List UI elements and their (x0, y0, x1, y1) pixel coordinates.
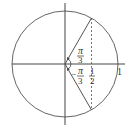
half-numerator: 1 (90, 66, 95, 76)
lower-angle-sign: − (71, 69, 76, 79)
unit-circle-diagram: π 3 − π 3 1 2 1 (0, 0, 131, 129)
half-denominator: 2 (90, 76, 95, 86)
angle-arc-upper (68, 59, 71, 64)
one-label: 1 (117, 66, 122, 77)
upper-angle-denominator: 3 (78, 55, 83, 65)
lower-angle-denominator: 3 (78, 76, 83, 86)
lower-angle-numerator: π (78, 65, 84, 76)
